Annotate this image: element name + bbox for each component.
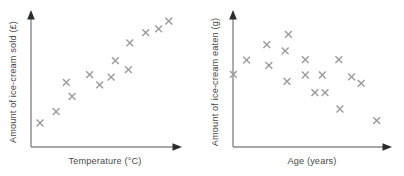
data-point (319, 72, 326, 79)
chart-panel-ice-cream-eaten-vs-age: Age (years) Amount of ice-cream eaten (g… (202, 0, 404, 176)
data-point (285, 31, 292, 38)
left-chart-svg: Temperature (°C) Amount of ice-cream sol… (0, 0, 202, 176)
data-point (302, 72, 309, 79)
y-axis-label: Amount of ice-cream sold (£) (8, 21, 18, 143)
data-point (282, 48, 289, 55)
data-point (373, 117, 380, 124)
y-axis-arrowhead (229, 10, 237, 20)
data-point (142, 29, 149, 36)
y-axis-arrowhead (27, 10, 35, 20)
data-point (96, 82, 103, 89)
data-point (243, 57, 250, 64)
data-point (37, 120, 44, 127)
y-axis-label: Amount of ice-cream eaten (g) (210, 18, 220, 146)
data-point (108, 74, 115, 81)
x-axis-arrowhead (383, 143, 393, 151)
data-point (302, 56, 309, 63)
data-point (63, 79, 70, 86)
data-point (312, 89, 319, 96)
data-point (112, 57, 119, 64)
x-axis-label: Temperature (°C) (69, 156, 142, 166)
data-point (69, 93, 76, 100)
data-point (86, 71, 93, 78)
data-point (337, 106, 344, 113)
data-point-group (230, 31, 380, 124)
data-point (322, 89, 329, 96)
data-point (53, 108, 60, 115)
x-axis-arrowhead (173, 143, 183, 151)
data-point (335, 56, 342, 63)
data-point (358, 80, 365, 87)
data-point (348, 74, 355, 81)
data-point-group (37, 18, 173, 127)
data-point (266, 62, 273, 69)
data-point (155, 26, 162, 33)
x-axis-label: Age (years) (287, 156, 336, 166)
data-point (284, 78, 291, 85)
right-chart-svg: Age (years) Amount of ice-cream eaten (g… (202, 0, 404, 176)
data-point (165, 18, 172, 25)
chart-panel-ice-cream-sold-vs-temperature: Temperature (°C) Amount of ice-cream sol… (0, 0, 202, 176)
scatter-plot-figure: Temperature (°C) Amount of ice-cream sol… (0, 0, 404, 176)
data-point (126, 40, 133, 47)
data-point (125, 66, 132, 73)
data-point (263, 41, 270, 48)
